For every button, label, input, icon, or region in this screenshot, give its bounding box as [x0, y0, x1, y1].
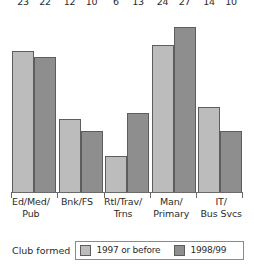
bar-1997-or-before	[198, 107, 220, 193]
bar-group: 14 10	[198, 8, 242, 193]
x-axis-label-line: Bnk/FS	[61, 196, 93, 208]
x-axis-label-line: Man/	[153, 196, 189, 208]
bar-wrapper: 27	[174, 8, 196, 193]
bar-1998-99	[34, 57, 56, 193]
bar-value-label: 23	[17, 0, 29, 7]
grouped-bar-chart: 23 22 12 10 6	[0, 0, 254, 270]
x-axis-label-it-bus-svcs: IT/ Bus Svcs	[200, 196, 242, 230]
legend: Club formed 1997 or before 1998/99	[12, 240, 244, 261]
x-axis-label-line: Rtl/Trav/	[104, 196, 142, 208]
bar-value-label: 14	[203, 0, 215, 7]
bar-group: 23 22	[12, 8, 56, 193]
bar-1998-99	[127, 113, 149, 193]
legend-item-1997-or-before[interactable]: 1997 or before	[80, 245, 160, 256]
bar-1998-99	[174, 27, 196, 194]
bar-wrapper: 22	[34, 8, 56, 193]
x-axis-tick	[242, 192, 243, 198]
legend-item-1998-99[interactable]: 1998/99	[174, 245, 226, 256]
bar-group: 6 13	[105, 8, 149, 193]
legend-title: Club formed	[12, 245, 70, 257]
x-axis-label-man-primary: Man/ Primary	[153, 196, 189, 230]
bar-wrapper: 12	[59, 8, 81, 193]
bar-1998-99	[81, 131, 103, 193]
bar-value-label: 12	[64, 0, 76, 7]
bar-wrapper: 13	[127, 8, 149, 193]
bar-wrapper: 6	[105, 8, 127, 193]
bar-value-label: 10	[225, 0, 237, 7]
bar-value-label: 27	[179, 0, 191, 7]
x-axis-label-line: Pub	[12, 208, 50, 220]
legend-swatch-icon	[174, 245, 185, 256]
bar-1997-or-before	[12, 51, 34, 193]
x-axis-label-ed-med-pub: Ed/Med/ Pub	[12, 196, 50, 230]
legend-box: 1997 or before 1998/99	[75, 241, 244, 260]
x-axis-label-line: Bus Svcs	[200, 208, 242, 220]
x-axis-line	[11, 192, 243, 193]
x-axis-category-labels: Ed/Med/ Pub Bnk/FS Rtl/Trav/ Trns Man/ P…	[12, 196, 242, 230]
legend-label: 1998/99	[190, 245, 226, 256]
x-axis-label-line: Primary	[153, 208, 189, 220]
bar-wrapper: 24	[152, 8, 174, 193]
bar-groups: 23 22 12 10 6	[12, 8, 242, 193]
plot-area: 23 22 12 10 6	[12, 8, 242, 193]
bar-wrapper: 23	[12, 8, 34, 193]
bar-value-label: 24	[157, 0, 169, 7]
x-axis-label-line: Trns	[104, 208, 142, 220]
bar-value-label: 6	[113, 0, 119, 7]
bar-1997-or-before	[59, 119, 81, 193]
bar-wrapper: 14	[198, 8, 220, 193]
x-axis-label-line: Ed/Med/	[12, 196, 50, 208]
bar-value-label: 22	[39, 0, 51, 7]
x-axis-label-rtl-trav-trns: Rtl/Trav/ Trns	[104, 196, 142, 230]
bar-value-label: 13	[132, 0, 144, 7]
x-axis-label-line: IT/	[200, 196, 242, 208]
bar-wrapper: 10	[81, 8, 103, 193]
bar-1997-or-before	[105, 156, 127, 193]
legend-label: 1997 or before	[96, 245, 160, 256]
bar-group: 24 27	[152, 8, 196, 193]
bar-value-label: 10	[86, 0, 98, 7]
legend-swatch-icon	[80, 245, 91, 256]
x-axis-label-bnk-fs: Bnk/FS	[61, 196, 93, 230]
bar-group: 12 10	[59, 8, 103, 193]
bar-1998-99	[220, 131, 242, 193]
bar-wrapper: 10	[220, 8, 242, 193]
bar-1997-or-before	[152, 45, 174, 193]
